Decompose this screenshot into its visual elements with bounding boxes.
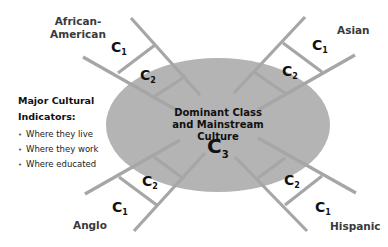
c2-hispanic: C2	[284, 173, 300, 193]
group-label-text: Asian	[337, 24, 370, 36]
group-label-hispanic: Hispanic	[330, 220, 381, 233]
indicators-list: •Where they live •Where they work •Where…	[18, 127, 118, 172]
group-label-line: African-	[48, 15, 108, 28]
major-cultural-indicators: Major Cultural Indicators: •Where they l…	[18, 93, 118, 172]
c2-anglo: C2	[142, 174, 158, 194]
c1-african-american: C1	[111, 40, 127, 60]
group-label-text: Hispanic	[330, 220, 381, 232]
indicators-title: Major Cultural Indicators:	[18, 93, 118, 125]
c3-marker: C3	[207, 136, 229, 165]
c1-asian: C1	[312, 38, 328, 58]
group-label-text: Anglo	[73, 219, 107, 231]
c1-anglo: C1	[112, 200, 128, 220]
c2-african-american: C2	[140, 68, 156, 88]
c2-asian: C2	[282, 64, 298, 84]
group-label-line: American	[48, 28, 108, 41]
group-label-asian: Asian	[337, 24, 370, 37]
indicator-item: •Where educated	[18, 157, 118, 172]
indicator-item: •Where they work	[18, 142, 118, 157]
title-line: Dominant Class	[158, 107, 278, 119]
group-label-anglo: Anglo	[73, 219, 107, 232]
group-label-african-american: African- American	[48, 15, 108, 41]
indicator-item: •Where they live	[18, 127, 118, 142]
c1-hispanic: C1	[315, 200, 331, 220]
